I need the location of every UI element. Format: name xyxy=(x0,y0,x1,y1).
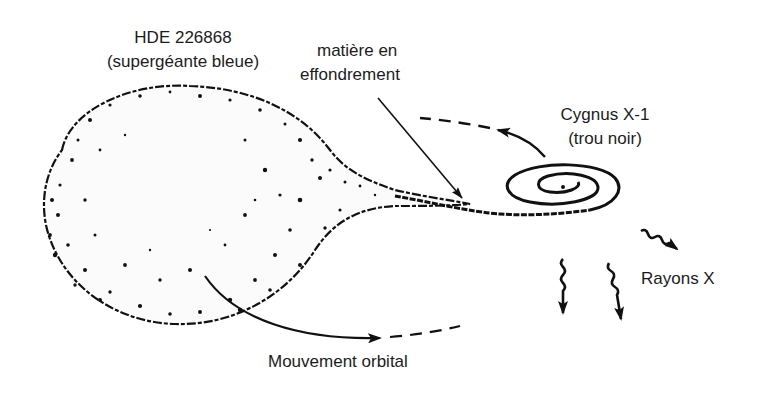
star-name-label: HDE 226868 xyxy=(108,27,258,48)
black-hole-type-label: (trou noir) xyxy=(540,128,670,149)
matter-pointer-arrow xyxy=(378,98,462,198)
accretion-disk xyxy=(507,165,619,210)
star-orbit-dashed xyxy=(390,326,460,337)
black-hole-core xyxy=(561,185,565,189)
xray-arrow-right xyxy=(641,230,677,249)
matter-label-line1: matière en xyxy=(300,40,467,61)
xray-arrow-down-left xyxy=(561,259,565,313)
xray-arrow-down-right xyxy=(608,263,621,319)
supergiant-star xyxy=(44,86,470,324)
bh-orbit-arrow xyxy=(498,130,545,157)
matter-label-line2: effondrement xyxy=(300,64,450,85)
bh-orbit-dashed xyxy=(420,118,490,128)
xray-label: Rayons X xyxy=(641,268,751,289)
star-type-label: (supergéante bleue) xyxy=(83,51,283,72)
orbital-motion-label: Mouvement orbital xyxy=(268,351,468,372)
black-hole-name-label: Cygnus X-1 xyxy=(540,104,670,125)
